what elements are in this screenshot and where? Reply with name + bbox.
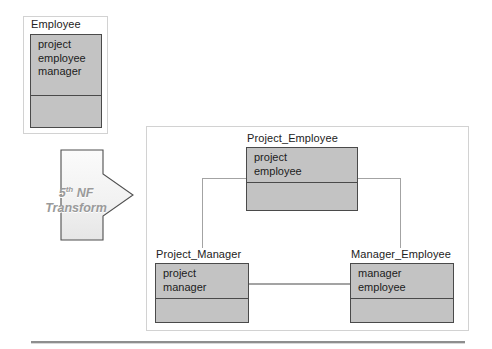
entity-manager-employee-body: manager employee (350, 263, 454, 323)
entity-project-manager-title: Project_Manager (156, 248, 241, 261)
attribute-item: project (254, 151, 357, 165)
entity-project-manager-body: project manager (155, 263, 249, 323)
attribute-item: employee (38, 52, 101, 66)
entity-project-manager[interactable]: Project_Manager project manager (155, 248, 249, 324)
entity-employee-empty-compartment (31, 96, 101, 127)
entity-project-employee[interactable]: Project_Employee project employee (246, 132, 358, 212)
entity-project-employee-body: project employee (246, 147, 358, 211)
transform-arrow: 5th NF Transform (32, 148, 136, 242)
bottom-divider (31, 341, 465, 344)
right-arrow-icon (32, 148, 136, 242)
entity-project-manager-empty-compartment (156, 299, 248, 322)
attribute-item: manager (38, 65, 101, 79)
entity-manager-employee[interactable]: Manager_Employee manager employee (350, 248, 454, 324)
entity-project-employee-attributes: project employee (247, 148, 357, 183)
entity-employee-body: project employee manager (30, 34, 102, 128)
entity-manager-employee-title: Manager_Employee (351, 248, 451, 261)
attribute-item: manager (163, 281, 248, 295)
attribute-item: employee (254, 165, 357, 179)
attribute-item: project (163, 267, 248, 281)
connector-segment (400, 178, 401, 248)
attribute-item: project (38, 38, 101, 52)
connector-segment (202, 178, 203, 248)
diagram-canvas: Employee project employee manager (0, 0, 492, 349)
entity-project-employee-empty-compartment (247, 183, 357, 210)
attribute-item: employee (358, 281, 453, 295)
entity-employee-title: Employee (31, 18, 81, 31)
entity-employee-attributes: project employee manager (31, 35, 101, 96)
entity-project-manager-attributes: project manager (156, 264, 248, 299)
connector-segment (202, 178, 246, 179)
connector-segment (357, 178, 401, 179)
entity-manager-employee-empty-compartment (351, 299, 453, 322)
attribute-item: manager (358, 267, 453, 281)
connector-segment (249, 283, 350, 285)
entity-project-employee-title: Project_Employee (247, 132, 338, 145)
entity-employee[interactable]: Employee project employee manager (30, 18, 102, 130)
entity-manager-employee-attributes: manager employee (351, 264, 453, 299)
